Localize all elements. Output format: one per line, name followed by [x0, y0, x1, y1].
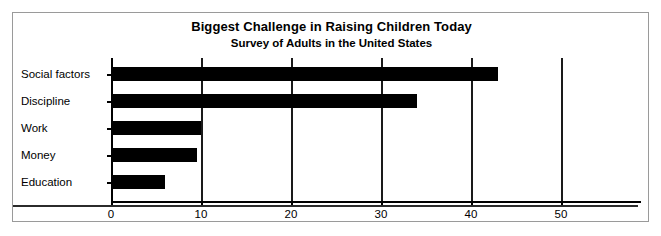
chart-subtitle: Survey of Adults in the United States [13, 36, 650, 51]
category-label: Social factors [21, 68, 90, 80]
bar [111, 175, 165, 189]
gridline [561, 58, 563, 201]
bar [111, 94, 417, 108]
plot-area: 01020304050 [111, 58, 641, 201]
bar [111, 67, 498, 81]
title-block: Biggest Challenge in Raising Children To… [13, 19, 650, 51]
category-label: Education [21, 176, 72, 188]
x-axis-tick-label: 10 [195, 208, 208, 220]
category-label: Work [21, 122, 48, 134]
baseline-rule [13, 205, 638, 207]
x-axis-tick-label: 40 [465, 208, 478, 220]
category-label: Discipline [21, 95, 70, 107]
category-label: Money [21, 149, 56, 161]
x-axis-tick-label: 0 [108, 208, 114, 220]
x-axis-tick-label: 50 [555, 208, 568, 220]
chart-title: Biggest Challenge in Raising Children To… [13, 19, 650, 35]
bar [111, 121, 201, 135]
x-axis-tick-label: 20 [285, 208, 298, 220]
chart-figure: Biggest Challenge in Raising Children To… [12, 12, 649, 222]
bar [111, 148, 197, 162]
x-axis-tick-label: 30 [375, 208, 388, 220]
